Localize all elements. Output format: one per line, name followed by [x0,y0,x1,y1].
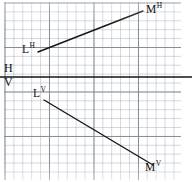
figure-canvas: MH LH LV MV H V [0,0,192,182]
label-m-horizontal: MH [146,4,162,15]
label-h-plane: H [4,63,13,74]
label-m-vertical: MV [145,162,161,173]
segment-vertical-projection [44,100,153,165]
label-v-plane: V [4,77,13,88]
line-drawing [0,0,192,182]
label-l-horizontal: LH [22,44,35,55]
label-l-vertical: LV [33,88,46,99]
segment-horizontal-projection [38,11,143,52]
